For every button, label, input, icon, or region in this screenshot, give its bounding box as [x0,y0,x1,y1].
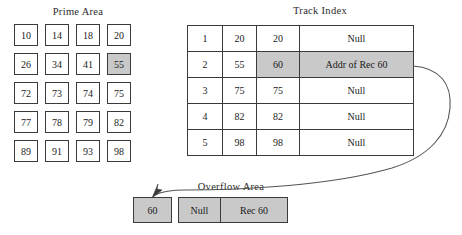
track-index-title: Track Index [250,5,390,16]
overflow-key-cell: 20 [257,26,300,52]
overflow-key-cell: 75 [257,78,300,104]
prime-cell-highlighted: 55 [107,53,131,75]
table-row: 4 82 82 Null [188,104,414,130]
arrow-head-icon [152,184,162,198]
prime-area-title: Prime Area [18,6,138,17]
table-row: 5 98 98 Null [188,130,414,156]
overflow-record-box: Null Rec 60 [178,197,288,223]
table-row-highlighted: 2 55 60 Addr of Rec 60 [188,52,414,78]
prime-area-row: 77 78 79 82 [14,111,131,133]
track-number-cell: 5 [188,130,223,156]
prime-cell: 26 [14,53,38,75]
prime-cell: 78 [45,111,69,133]
prime-cell: 98 [107,140,131,162]
overflow-key-box: 60 [133,197,172,223]
prime-cell: 89 [14,140,38,162]
prime-cell: 79 [76,111,100,133]
prime-key-cell: 55 [223,52,257,78]
prime-cell: 20 [107,24,131,46]
overflow-key-cell: 98 [257,130,300,156]
prime-cell: 77 [14,111,38,133]
prime-area-grid: 10 14 18 20 26 34 41 55 72 73 74 75 77 7… [14,24,131,169]
prime-cell: 74 [76,82,100,104]
prime-area-row: 10 14 18 20 [14,24,131,46]
prime-cell: 72 [14,82,38,104]
prime-cell: 41 [76,53,100,75]
overflow-address-cell: Null [300,130,414,156]
prime-cell: 91 [45,140,69,162]
track-number-cell: 3 [188,78,223,104]
prime-cell: 14 [45,24,69,46]
overflow-address-cell: Null [300,26,414,52]
track-number-cell: 2 [188,52,223,78]
prime-cell: 34 [45,53,69,75]
track-index-table: 1 20 20 Null 2 55 60 Addr of Rec 60 3 75… [187,25,414,156]
prime-cell: 75 [107,82,131,104]
prime-cell: 73 [45,82,69,104]
overflow-address-cell: Addr of Rec 60 [300,52,414,78]
overflow-key-cell: 82 [257,104,300,130]
prime-cell: 82 [107,111,131,133]
overflow-record-data: Rec 60 [221,198,287,222]
prime-key-cell: 82 [223,104,257,130]
prime-cell: 18 [76,24,100,46]
diagram-canvas: Prime Area 10 14 18 20 26 34 41 55 72 73… [0,0,462,235]
overflow-record-link: Null [179,198,221,222]
track-number-cell: 4 [188,104,223,130]
prime-area-row: 26 34 41 55 [14,53,131,75]
prime-area-row: 72 73 74 75 [14,82,131,104]
prime-key-cell: 98 [223,130,257,156]
prime-area-row: 89 91 93 98 [14,140,131,162]
overflow-key-cell: 60 [257,52,300,78]
table-row: 3 75 75 Null [188,78,414,104]
prime-key-cell: 20 [223,26,257,52]
prime-key-cell: 75 [223,78,257,104]
overflow-address-cell: Null [300,104,414,130]
prime-cell: 93 [76,140,100,162]
track-number-cell: 1 [188,26,223,52]
prime-cell: 10 [14,24,38,46]
overflow-address-cell: Null [300,78,414,104]
overflow-area-title: Overflow Area [176,181,286,192]
table-row: 1 20 20 Null [188,26,414,52]
